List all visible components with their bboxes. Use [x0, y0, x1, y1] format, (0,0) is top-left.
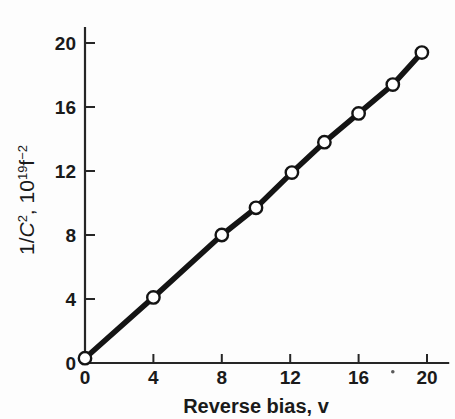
y-tick-label: 16 [55, 97, 76, 118]
data-point-marker [416, 46, 428, 58]
y-axis-title-f-exponent: −2 [15, 145, 30, 160]
y-axis-title-ten-exponent: 19 [15, 166, 30, 180]
x-tick-label: 12 [280, 367, 301, 388]
y-tick-label: 0 [65, 353, 76, 374]
chart-annotations [391, 370, 395, 374]
y-tick-label: 4 [65, 289, 76, 310]
data-point-marker [216, 229, 228, 241]
data-point-marker [250, 202, 262, 214]
y-axis-title: 1/C2, 1019f−2 [15, 145, 39, 255]
y-axis-title-prefix: 1/ [15, 237, 38, 255]
stray-ink-dot-icon [391, 370, 395, 374]
y-axis-title-c: C [15, 222, 38, 238]
data-point-marker [79, 352, 91, 364]
x-axis-ticks [85, 354, 427, 363]
x-axis-title: Reverse bias, v [183, 395, 330, 417]
y-axis-tick-labels: 048121620 [55, 33, 77, 374]
chart-plot-area: 048121620 048121620 Reverse bias, v 1/C2… [0, 0, 455, 419]
y-axis-title-comma: , 10 [15, 180, 38, 215]
data-point-marker [387, 78, 399, 90]
y-axis-ticks [85, 43, 95, 299]
x-axis-tick-labels: 048121620 [80, 367, 438, 388]
y-tick-label: 8 [65, 225, 76, 246]
y-tick-label: 20 [55, 33, 76, 54]
data-point-marker [286, 166, 298, 178]
x-tick-label: 4 [148, 367, 159, 388]
svg-text:1/C2, 1019f−2: 1/C2, 1019f−2 [15, 145, 39, 255]
data-series-group [79, 46, 428, 364]
data-point-marker [318, 136, 330, 148]
data-point-marker [352, 107, 364, 119]
x-tick-label: 8 [217, 367, 228, 388]
y-tick-label: 12 [55, 161, 76, 182]
data-point-marker [147, 291, 159, 303]
y-axis-title-c-exponent: 2 [15, 215, 30, 222]
x-tick-label: 20 [416, 367, 437, 388]
chart-figure: 048121620 048121620 Reverse bias, v 1/C2… [0, 0, 455, 419]
x-tick-label: 0 [80, 367, 91, 388]
x-tick-label: 16 [348, 367, 369, 388]
